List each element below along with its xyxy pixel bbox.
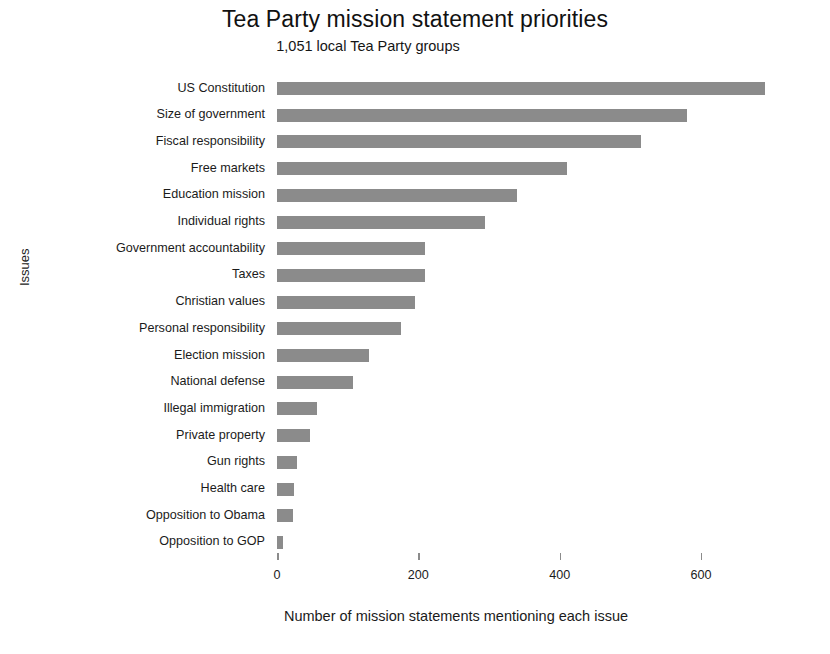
bar xyxy=(277,429,310,442)
y-axis-tick-label: Illegal immigration xyxy=(50,401,265,415)
bar-row xyxy=(277,129,777,156)
bar-row xyxy=(277,450,777,477)
x-axis-tick-mark xyxy=(701,553,703,560)
bar xyxy=(277,483,294,496)
bar xyxy=(277,349,369,362)
x-axis-tick-label: 0 xyxy=(273,568,280,582)
y-axis-tick-label: Election mission xyxy=(50,348,265,362)
y-axis-tick-label: Size of government xyxy=(50,107,265,121)
bar-row xyxy=(277,290,777,317)
y-axis-tick-label: Opposition to Obama xyxy=(50,508,265,522)
bar-row xyxy=(277,316,777,343)
chart-figure: Tea Party mission statement priorities 1… xyxy=(0,0,830,654)
bar xyxy=(277,296,415,309)
x-axis-tick-label: 400 xyxy=(549,568,570,582)
chart-title: Tea Party mission statement priorities xyxy=(0,6,830,33)
bar xyxy=(277,456,297,469)
chart-subtitle: 1,051 local Tea Party groups xyxy=(0,38,830,54)
bar-row xyxy=(277,396,777,423)
y-axis-tick-label: Personal responsibility xyxy=(50,321,265,335)
x-axis-tick-mark xyxy=(277,553,279,560)
y-axis-title: Issues xyxy=(17,248,32,286)
y-axis-tick-label: Private property xyxy=(50,428,265,442)
x-axis-tick-label: 200 xyxy=(408,568,429,582)
y-axis-tick-label: Christian values xyxy=(50,294,265,308)
x-axis-title-text: Number of mission statements mentioning … xyxy=(284,608,628,624)
bar-row xyxy=(277,423,777,450)
bar-row xyxy=(277,156,777,183)
x-axis-title: Number of mission statements mentioning … xyxy=(0,608,830,624)
y-axis-tick-label: Gun rights xyxy=(50,454,265,468)
x-axis-tick-label: 600 xyxy=(690,568,711,582)
y-axis-tick-label: US Constitution xyxy=(50,81,265,95)
bar xyxy=(277,216,485,229)
bar-row xyxy=(277,343,777,370)
bar-row xyxy=(277,103,777,130)
bar xyxy=(277,509,293,522)
y-axis-tick-label: Opposition to GOP xyxy=(50,534,265,548)
chart-subtitle-text: 1,051 local Tea Party groups xyxy=(276,38,460,54)
y-axis-tick-label: Education mission xyxy=(50,187,265,201)
x-axis-tick-labels: 0200400600 xyxy=(277,568,777,586)
bar xyxy=(277,376,353,389)
bar-row xyxy=(277,263,777,290)
bar-row xyxy=(277,183,777,210)
bar xyxy=(277,242,425,255)
y-axis-tick-label: Fiscal responsibility xyxy=(50,134,265,148)
bar xyxy=(277,189,517,202)
y-axis-tick-label: National defense xyxy=(50,374,265,388)
bar xyxy=(277,82,765,95)
bar xyxy=(277,269,425,282)
bar xyxy=(277,536,283,549)
x-axis-tick-mark xyxy=(418,553,420,560)
x-axis-tick-marks xyxy=(277,553,777,561)
y-axis-tick-labels: US ConstitutionSize of governmentFiscal … xyxy=(50,76,265,556)
bar xyxy=(277,135,641,148)
bar-row xyxy=(277,236,777,263)
bar-row xyxy=(277,210,777,237)
bar-row xyxy=(277,370,777,397)
x-axis-tick-mark xyxy=(560,553,562,560)
bar-row xyxy=(277,76,777,103)
plot-area xyxy=(277,76,777,556)
bar xyxy=(277,109,687,122)
bar-row xyxy=(277,503,777,530)
bar xyxy=(277,402,317,415)
bar xyxy=(277,322,401,335)
y-axis-tick-label: Individual rights xyxy=(50,214,265,228)
y-axis-tick-label: Free markets xyxy=(50,161,265,175)
bar xyxy=(277,162,567,175)
bar-row xyxy=(277,477,777,504)
y-axis-tick-label: Health care xyxy=(50,481,265,495)
y-axis-tick-label: Government accountability xyxy=(50,241,265,255)
y-axis-tick-label: Taxes xyxy=(50,267,265,281)
